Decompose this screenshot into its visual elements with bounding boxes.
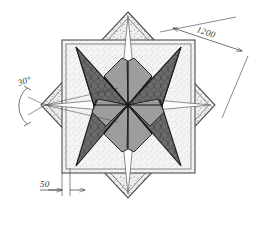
dimension-50-label: 50 [40,179,50,189]
dimension-30deg-label: 30° [16,74,33,88]
drawing-svg: 1200 30° 50 [0,0,259,227]
dimension-1200-label: 1200 [195,24,217,40]
technical-drawing-canvas: 1200 30° 50 [0,0,259,227]
